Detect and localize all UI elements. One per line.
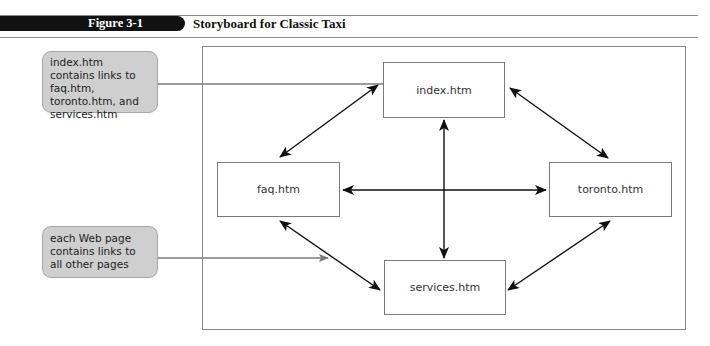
page-box-faq: faq.htm — [217, 162, 340, 217]
page-box-index: index.htm — [383, 62, 505, 118]
page-label-faq: faq.htm — [257, 183, 300, 196]
link-faq-services — [280, 221, 380, 290]
page-box-toronto: toronto.htm — [549, 162, 672, 217]
page-box-services: services.htm — [384, 260, 506, 315]
page-label-services: services.htm — [410, 281, 481, 294]
page-label-toronto: toronto.htm — [578, 183, 643, 196]
link-index-toronto — [510, 88, 608, 158]
link-index-faq — [280, 85, 378, 157]
page-label-index: index.htm — [416, 84, 472, 97]
link-toronto-services — [508, 221, 610, 290]
